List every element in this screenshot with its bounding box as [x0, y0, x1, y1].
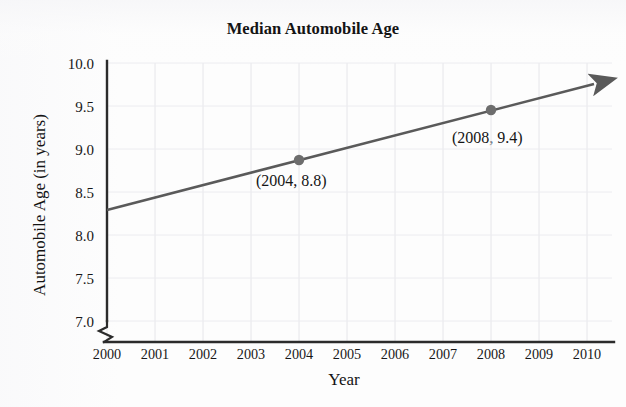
trend-line	[107, 84, 594, 210]
chart-plot-area	[0, 0, 626, 407]
axis-break-icon	[99, 321, 112, 342]
horizontal-gridlines	[107, 63, 612, 321]
data-point-marker-2008[interactable]	[486, 105, 496, 115]
data-point-marker-2004[interactable]	[294, 155, 304, 165]
chart-page: Median Automobile Age Automobile Age (in…	[0, 0, 626, 407]
